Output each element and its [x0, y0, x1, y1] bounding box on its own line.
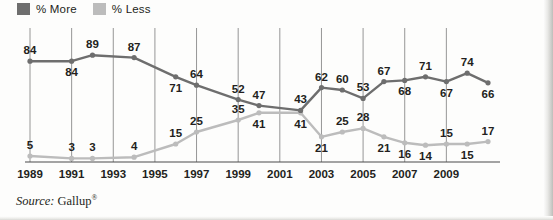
data-point: [444, 79, 449, 84]
data-label: 67: [378, 65, 391, 77]
data-label: 41: [253, 118, 266, 130]
legend-item-less: % Less: [93, 3, 151, 15]
legend-label-more: % More: [36, 3, 77, 15]
data-point: [90, 156, 95, 161]
registered-mark-icon: ®: [92, 193, 98, 202]
data-point: [485, 139, 490, 144]
data-label: 62: [315, 71, 328, 83]
data-point: [361, 126, 366, 131]
data-label: 15: [461, 149, 474, 161]
x-tick-label: 1993: [100, 168, 126, 180]
data-point: [298, 108, 303, 113]
source-label: Source:: [16, 194, 54, 208]
data-point: [194, 83, 199, 88]
legend-swatch-more: [17, 3, 30, 15]
data-label: 21: [378, 142, 391, 154]
data-label: 3: [68, 141, 74, 153]
page-bottom-shadow: [0, 216, 553, 220]
data-label: 71: [419, 60, 432, 72]
data-point: [340, 129, 345, 134]
data-label: 41: [294, 118, 307, 130]
data-label: 68: [398, 85, 411, 97]
data-label: 15: [169, 127, 182, 139]
data-point: [340, 87, 345, 92]
data-point: [402, 78, 407, 83]
data-point: [319, 85, 324, 90]
data-label: 66: [482, 88, 495, 100]
data-label: 71: [169, 82, 182, 94]
page-edge-shadow: [543, 0, 553, 220]
data-point: [173, 74, 178, 79]
data-point: [69, 156, 74, 161]
data-point: [132, 55, 137, 60]
data-label: 53: [357, 81, 370, 93]
x-tick-label: 1995: [142, 168, 168, 180]
data-label: 47: [253, 89, 266, 101]
chart-legend: % More % Less: [17, 3, 151, 15]
data-point: [236, 97, 241, 102]
source-note: Source: Gallup®: [16, 193, 97, 209]
x-tick-label: 2003: [309, 168, 335, 180]
data-label: 14: [419, 150, 432, 162]
legend-label-less: % Less: [112, 3, 151, 15]
data-label: 25: [190, 115, 203, 127]
plot-area: 53341525354141212528211614151517 8484898…: [0, 22, 553, 172]
x-tick-label: 1999: [225, 168, 251, 180]
x-tick-label: 1991: [59, 168, 85, 180]
data-label: 21: [315, 142, 328, 154]
source-value: Gallup: [58, 194, 92, 208]
data-label: 35: [232, 103, 245, 115]
data-label: 84: [65, 66, 78, 78]
data-label: 89: [86, 38, 99, 50]
data-point: [381, 79, 386, 84]
x-tick-label: 1989: [17, 168, 43, 180]
legend-swatch-less: [93, 3, 106, 15]
data-point: [173, 141, 178, 146]
data-label: 74: [461, 56, 474, 68]
data-point: [194, 129, 199, 134]
data-point: [465, 71, 470, 76]
x-tick-label: 2001: [267, 168, 293, 180]
data-label: 28: [357, 111, 370, 123]
data-point: [402, 140, 407, 145]
x-tick-label: 1997: [184, 168, 210, 180]
data-label: 84: [24, 44, 37, 56]
chart-figure: % More % Less 53341525354141212528211614…: [0, 0, 553, 220]
x-tick-label: 2009: [434, 168, 460, 180]
data-label: 4: [131, 140, 138, 152]
data-point: [485, 80, 490, 85]
data-point: [27, 59, 32, 64]
data-label: 25: [336, 115, 349, 127]
data-point: [381, 134, 386, 139]
data-label: 5: [27, 139, 34, 151]
data-point: [423, 74, 428, 79]
data-point: [90, 53, 95, 58]
data-label: 15: [440, 127, 453, 139]
data-point: [361, 96, 366, 101]
data-label: 17: [482, 125, 495, 137]
data-point: [27, 153, 32, 158]
x-tick-label: 2007: [392, 168, 418, 180]
data-label: 52: [232, 83, 245, 95]
data-point: [236, 117, 241, 122]
data-point: [423, 143, 428, 148]
legend-item-more: % More: [17, 3, 77, 15]
data-label: 87: [128, 41, 141, 53]
data-point: [444, 141, 449, 146]
data-label: 64: [190, 68, 203, 80]
data-label: 60: [336, 73, 349, 85]
data-point: [256, 110, 261, 115]
x-tick-label: 2005: [350, 168, 376, 180]
data-point: [319, 134, 324, 139]
data-label: 43: [294, 93, 307, 105]
data-point: [132, 155, 137, 160]
chart-canvas: 53341525354141212528211614151517 8484898…: [0, 22, 553, 172]
data-point: [256, 103, 261, 108]
data-label: 67: [440, 87, 453, 99]
x-axis-labels: 1989199119931995199719992001200320052007…: [0, 168, 553, 186]
data-label: 16: [398, 148, 411, 160]
data-point: [465, 141, 470, 146]
data-label: 3: [89, 141, 95, 153]
data-point: [69, 59, 74, 64]
data-labels-more: 848489877164524743626053676871677466: [24, 38, 495, 105]
